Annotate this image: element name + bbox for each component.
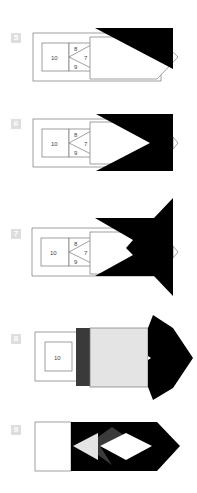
- step-5-figure: 10 8 7 9: [0, 0, 197, 100]
- step-8-figure: 10: [0, 305, 197, 410]
- step-6: 6 10 8 7 9: [0, 100, 197, 195]
- step-5: 5 10 8 7 9: [0, 0, 197, 100]
- label-10: 10: [50, 250, 57, 256]
- step-9-figure: [0, 410, 197, 493]
- label-10: 10: [51, 55, 58, 61]
- label-10: 10: [51, 141, 58, 147]
- step-8: 8 10: [0, 305, 197, 410]
- step-9: 9: [0, 410, 197, 493]
- step-6-figure: 10 8 7 9: [0, 100, 197, 195]
- label-10: 10: [54, 355, 61, 361]
- step-7: 7 10 8 7 9: [0, 195, 197, 305]
- step-7-figure: 10 8 7 9: [0, 195, 197, 305]
